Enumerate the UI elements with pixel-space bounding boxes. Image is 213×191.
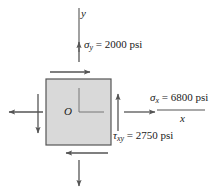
sigma-x-value: 6800 [171, 91, 193, 103]
origin-label: O [64, 106, 72, 117]
sigma-x-subscript: x [155, 96, 159, 105]
tau-xy-equals: = [127, 129, 133, 141]
sigma-x-label: σx = 6800 psi [150, 92, 208, 105]
sigma-x-unit: psi [195, 91, 208, 103]
sigma-y-unit: psi [129, 38, 142, 50]
sigma-y-label: σy = 2000 psi [84, 39, 142, 52]
tau-xy-label: τxy = 2750 psi [113, 130, 173, 143]
sigma-y-equals: = [96, 38, 102, 50]
sigma-y-value: 2000 [105, 38, 127, 50]
tau-xy-unit: psi [161, 129, 174, 141]
y-axis-label: y [81, 8, 86, 19]
tau-xy-value: 2750 [136, 129, 158, 141]
tau-xy-subscript: xy [117, 134, 124, 143]
x-axis-label: x [180, 113, 185, 124]
sigma-x-equals: = [162, 91, 168, 103]
sigma-y-subscript: y [89, 43, 93, 52]
